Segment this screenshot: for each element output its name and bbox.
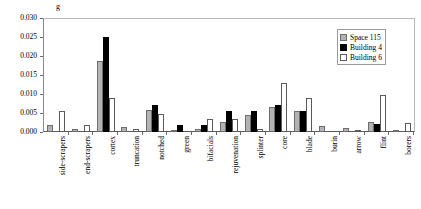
x-axis-tick-label: blade: [306, 136, 314, 152]
legend-swatch: [340, 54, 347, 61]
x-axis-tick-label: flint: [380, 136, 388, 149]
legend-item: Building 6: [340, 52, 382, 62]
x-axis-tick-label: splinter: [257, 136, 265, 159]
y-axis-tick-label: 0.015: [20, 70, 37, 79]
y-axis-unit-label: g: [56, 2, 60, 12]
x-axis-labels: side-scrapersend-scraperscortextruncatio…: [44, 136, 414, 208]
bar-group: [389, 18, 414, 132]
x-axis-label-cell: end-scrapers: [69, 136, 94, 208]
chart-legend: Space 115Building 4Building 6: [337, 29, 386, 65]
x-axis-tick-label: rejuvenation: [232, 136, 240, 174]
x-axis-label-cell: side-scrapers: [44, 136, 69, 208]
x-axis-tick-label: notched: [158, 136, 166, 160]
y-axis-tick-label: 0.005: [20, 108, 37, 117]
x-axis-label-cell: cortex: [93, 136, 118, 208]
x-axis-tick-label: side-scrapers: [59, 136, 67, 175]
y-axis-tick-label: 0.010: [20, 89, 37, 98]
bar-group: [217, 18, 242, 132]
y-axis-tick-mark: [40, 94, 43, 95]
y-axis-tick-label: 0.030: [20, 13, 37, 22]
bar: [380, 95, 386, 132]
legend-item: Building 4: [340, 42, 382, 52]
legend-swatch: [340, 34, 347, 41]
y-axis-tick-label: 0.020: [20, 51, 37, 60]
y-axis-tick-label: 0.025: [20, 32, 37, 41]
y-axis: 0.0000.0050.0100.0150.0200.0250.030: [0, 18, 43, 132]
x-axis-label-cell: rejuvenation: [217, 136, 242, 208]
x-axis-tick-label: green: [183, 136, 191, 153]
x-axis-tick-label: borers: [405, 136, 413, 155]
bar-group: [44, 18, 69, 132]
y-axis-tick-mark: [40, 75, 43, 76]
bar: [84, 125, 90, 132]
y-axis-tick-mark: [40, 132, 43, 133]
legend-label: Space 115: [350, 33, 381, 42]
bar-group: [266, 18, 291, 132]
bar-group: [291, 18, 316, 132]
x-axis-label-cell: borers: [389, 136, 414, 208]
bar: [59, 111, 65, 132]
bar: [207, 119, 213, 132]
y-axis-tick-mark: [40, 113, 43, 114]
x-axis-tick-label: bifacials: [207, 136, 215, 161]
x-axis-label-cell: burin: [315, 136, 340, 208]
y-axis-tick-mark: [40, 37, 43, 38]
bar: [47, 125, 53, 132]
legend-label: Building 4: [350, 43, 382, 52]
x-axis-label-cell: truncation: [118, 136, 143, 208]
x-axis-label-cell: blade: [291, 136, 316, 208]
legend-label: Building 6: [350, 53, 382, 62]
x-axis-tick-label: core: [281, 136, 289, 149]
bar: [158, 114, 164, 132]
bar-group: [192, 18, 217, 132]
y-axis-tick-label: 0.000: [20, 127, 37, 136]
x-axis-tick-label: arrow: [355, 136, 363, 154]
x-axis-label-cell: green: [167, 136, 192, 208]
x-axis-label-cell: notched: [143, 136, 168, 208]
x-axis-label-cell: core: [266, 136, 291, 208]
x-axis-label-cell: bifacials: [192, 136, 217, 208]
bar: [232, 119, 238, 132]
y-axis-tick-mark: [40, 56, 43, 57]
bar: [405, 123, 411, 133]
legend-item: Space 115: [340, 32, 382, 42]
x-axis-label-cell: flint: [365, 136, 390, 208]
bar-group: [241, 18, 266, 132]
x-axis-tick-label: truncation: [133, 136, 141, 166]
bar-group: [118, 18, 143, 132]
bar: [177, 125, 183, 132]
x-axis-tick-label: cortex: [109, 136, 117, 155]
y-axis-tick-mark: [40, 18, 43, 19]
bar-group: [167, 18, 192, 132]
bar: [306, 98, 312, 132]
x-axis-label-cell: arrow: [340, 136, 365, 208]
bar-group: [93, 18, 118, 132]
x-axis-tick-label: end-scrapers: [84, 136, 92, 174]
legend-swatch: [340, 44, 347, 51]
x-axis-label-cell: splinter: [241, 136, 266, 208]
bar: [109, 98, 115, 132]
bar-group: [143, 18, 168, 132]
bar: [281, 83, 287, 132]
bar-group: [69, 18, 94, 132]
x-axis-tick-label: burin: [331, 136, 339, 152]
bar-chart: g 0.0000.0050.0100.0150.0200.0250.030 si…: [0, 0, 421, 209]
